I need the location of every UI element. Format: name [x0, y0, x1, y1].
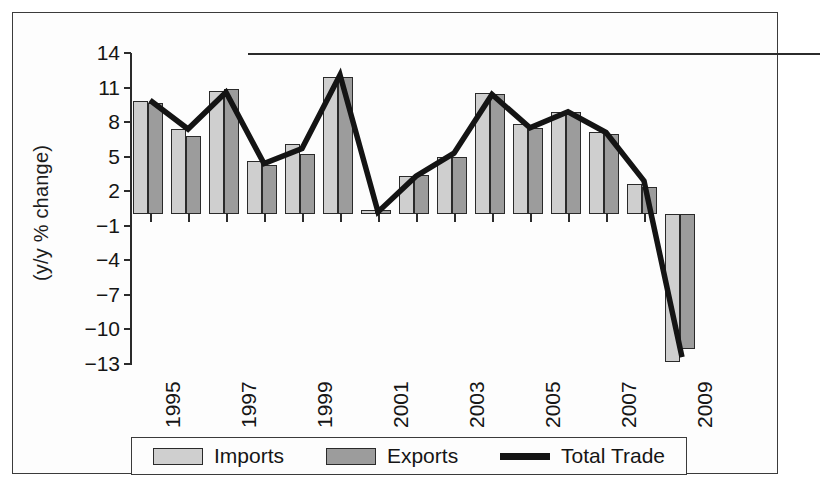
y-axis-tick-label: 8 [46, 110, 131, 134]
bar-exports-1997 [224, 89, 239, 215]
bar-exports-1996 [186, 136, 201, 214]
x-axis-tick-mark [150, 214, 152, 222]
bar-exports-2004 [490, 94, 505, 214]
bar-imports-2009 [665, 214, 680, 361]
x-axis-tick-mark [340, 214, 342, 222]
y-axis-tick-mark [124, 363, 131, 365]
y-axis-tick-mark [124, 190, 131, 192]
bar-exports-2003 [452, 157, 467, 215]
bar-exports-2006 [566, 112, 581, 215]
legend-label: Imports [214, 444, 284, 468]
line-black-icon [500, 453, 550, 460]
plot-area: 1411852−1−4−7−10−13 [131, 53, 701, 364]
legend-item-total-trade[interactable]: Total Trade [500, 444, 665, 468]
bar-imports-1995 [133, 101, 148, 214]
y-axis-tick-label: −13 [46, 352, 131, 376]
x-axis-label-1997: 1997 [237, 381, 261, 428]
bar-imports-2003 [437, 157, 452, 215]
bar-imports-2007 [589, 132, 604, 214]
y-axis-tick-label: 14 [46, 41, 131, 65]
x-axis-label-1999: 1999 [313, 381, 337, 428]
bar-exports-2005 [528, 128, 543, 214]
legend-item-imports[interactable]: Imports [153, 444, 284, 468]
x-axis-tick-mark [606, 214, 608, 222]
bar-imports-1996 [171, 129, 186, 214]
x-axis-tick-mark [416, 214, 418, 222]
bar-imports-2000 [323, 77, 338, 214]
bar-exports-1999 [300, 154, 315, 214]
x-axis-tick-mark [226, 214, 228, 222]
bar-exports-2009 [680, 214, 695, 349]
x-axis-tick-mark [188, 214, 190, 222]
y-axis-tick-label: 11 [46, 75, 131, 99]
x-axis-tick-mark [644, 214, 646, 222]
legend-label: Exports [387, 444, 458, 468]
x-axis-label-2005: 2005 [541, 381, 565, 428]
bar-exports-1998 [262, 165, 277, 215]
y-axis-tick-label: −4 [46, 248, 131, 272]
x-axis-zero-line [248, 53, 820, 55]
bar-imports-1997 [209, 91, 224, 214]
y-axis-tick-mark [124, 294, 131, 296]
y-axis-tick-label: 2 [46, 179, 131, 203]
bar-exports-2008 [642, 187, 657, 215]
x-axis-tick-mark [264, 214, 266, 222]
legend-item-exports[interactable]: Exports [326, 444, 458, 468]
x-axis-label-2007: 2007 [617, 381, 641, 428]
bar-exports-1995 [148, 103, 163, 215]
bar-exports-2007 [604, 134, 619, 215]
y-axis-tick-label: −7 [46, 282, 131, 306]
legend-label: Total Trade [561, 444, 665, 468]
x-axis-tick-mark [492, 214, 494, 222]
y-axis-tick-label: 5 [46, 144, 131, 168]
y-axis-tick-mark [124, 225, 131, 227]
chart-legend: ImportsExportsTotal Trade [131, 437, 687, 475]
x-axis-tick-mark [530, 214, 532, 222]
x-axis-label-1995: 1995 [161, 381, 185, 428]
y-axis-tick-mark [124, 121, 131, 123]
y-axis-tick-mark [124, 156, 131, 158]
bar-imports-2005 [513, 124, 528, 214]
bar-imports-2006 [551, 112, 566, 215]
y-axis-tick-label: −10 [46, 317, 131, 341]
bar-imports-2004 [475, 93, 490, 214]
y-axis-tick-mark [124, 87, 131, 89]
y-axis-tick-mark [124, 328, 131, 330]
bar-exports-2001 [376, 210, 391, 215]
y-axis-tick-label: −1 [46, 213, 131, 237]
y-axis-tick-mark [124, 52, 131, 54]
chart-frame: (y/y % change) 1411852−1−4−7−10−13 19951… [12, 12, 778, 474]
x-axis-tick-mark [378, 214, 380, 222]
x-axis-label-2001: 2001 [389, 381, 413, 428]
bar-imports-1998 [247, 161, 262, 214]
bar-imports-1999 [285, 144, 300, 214]
x-axis-label-2003: 2003 [465, 381, 489, 428]
bar-imports-2002 [399, 176, 414, 214]
x-axis-tick-mark [568, 214, 570, 222]
swatch-light-icon [153, 448, 203, 465]
bar-imports-2001 [361, 210, 376, 215]
swatch-dark-icon [326, 448, 376, 465]
bar-exports-2000 [338, 77, 353, 214]
y-axis-tick-mark [124, 259, 131, 261]
x-axis-tick-mark [302, 214, 304, 222]
bar-imports-2008 [627, 184, 642, 214]
x-axis-label-2009: 2009 [693, 381, 717, 428]
x-axis-tick-mark [454, 214, 456, 222]
bar-exports-2002 [414, 175, 429, 214]
